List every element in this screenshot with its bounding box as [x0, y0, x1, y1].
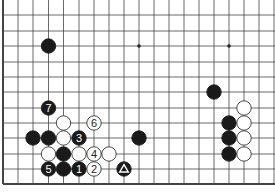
white-stone — [56, 116, 70, 130]
black-stone — [207, 85, 221, 99]
black-stone — [56, 162, 70, 176]
black-stone — [222, 116, 236, 130]
white-stone — [237, 101, 251, 115]
go-board-diagram: 7634512 — [0, 0, 275, 196]
move-number-label: 5 — [45, 163, 51, 175]
white-stone — [102, 147, 116, 161]
white-stone — [56, 131, 70, 145]
move-number-label: 1 — [76, 163, 82, 175]
move-number-label: 3 — [76, 132, 82, 144]
black-stone — [222, 131, 236, 145]
white-stone — [237, 147, 251, 161]
star-point — [227, 44, 231, 48]
black-stone — [41, 39, 55, 53]
move-number-label: 7 — [45, 102, 51, 114]
move-number-label: 6 — [91, 117, 97, 129]
white-stone — [237, 131, 251, 145]
white-stone — [41, 147, 55, 161]
black-stone — [26, 131, 40, 145]
move-number-label: 4 — [91, 148, 97, 160]
black-stone — [132, 131, 146, 145]
white-stone — [72, 147, 86, 161]
black-stone — [41, 131, 55, 145]
white-stone — [237, 116, 251, 130]
move-number-label: 2 — [91, 163, 97, 175]
star-point — [137, 44, 141, 48]
black-stone — [222, 147, 236, 161]
black-stone — [56, 147, 70, 161]
